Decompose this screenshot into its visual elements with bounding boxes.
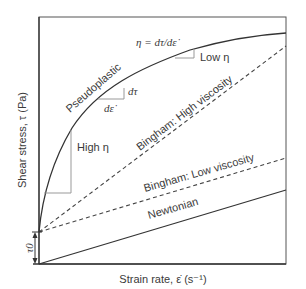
newtonian-label: Newtonian xyxy=(146,195,199,221)
d-tau-label: dτ xyxy=(128,85,139,97)
x-axis-label: Strain rate, ε̇ (s⁻¹) xyxy=(119,273,206,285)
low-eta-label: Low η xyxy=(200,51,229,63)
arrow-up-icon xyxy=(33,232,38,238)
bingham-low-line xyxy=(39,158,286,232)
d-eps-label: dε̇ xyxy=(104,102,118,114)
yield-stress-label: τ0 xyxy=(23,243,35,253)
bingham-low-label: Bingham: Low viscosity xyxy=(142,151,256,194)
y-axis-label: Shear stress, τ (Pa) xyxy=(16,92,28,188)
low-eta-triangle xyxy=(175,49,194,58)
high-eta-label: High η xyxy=(77,141,109,153)
bingham-high-label: Bingham: High viscosity xyxy=(134,72,235,152)
arrow-down-icon xyxy=(33,258,38,264)
viscosity-definition: η = dτ/dε̇ xyxy=(136,36,181,48)
pseudoplastic-label: Pseudoplastic xyxy=(63,60,123,114)
rheology-diagram: τ0 Shear stress, τ (Pa) Strain rate, ε̇ … xyxy=(0,0,306,289)
newtonian-line xyxy=(39,190,286,264)
slope-triangle xyxy=(98,88,124,99)
